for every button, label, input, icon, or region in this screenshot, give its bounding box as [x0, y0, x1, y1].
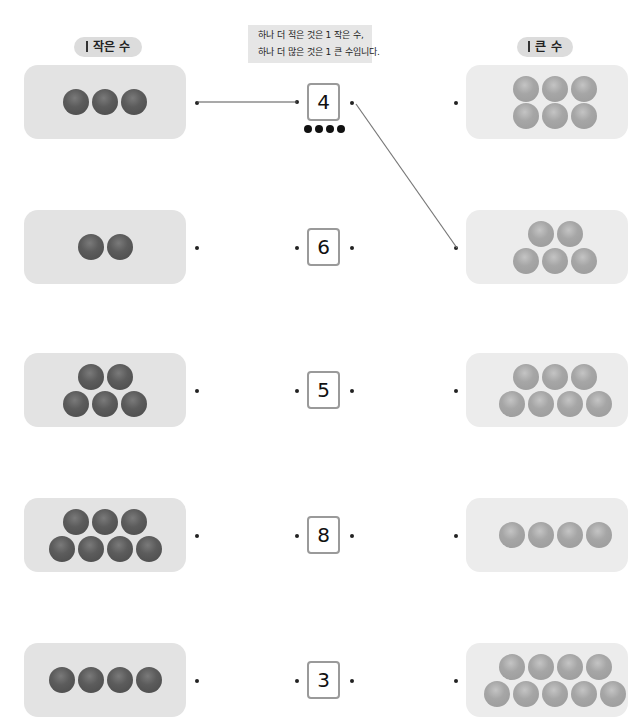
connection-line-number1-right2 — [356, 104, 457, 248]
connection-lines — [0, 0, 640, 718]
